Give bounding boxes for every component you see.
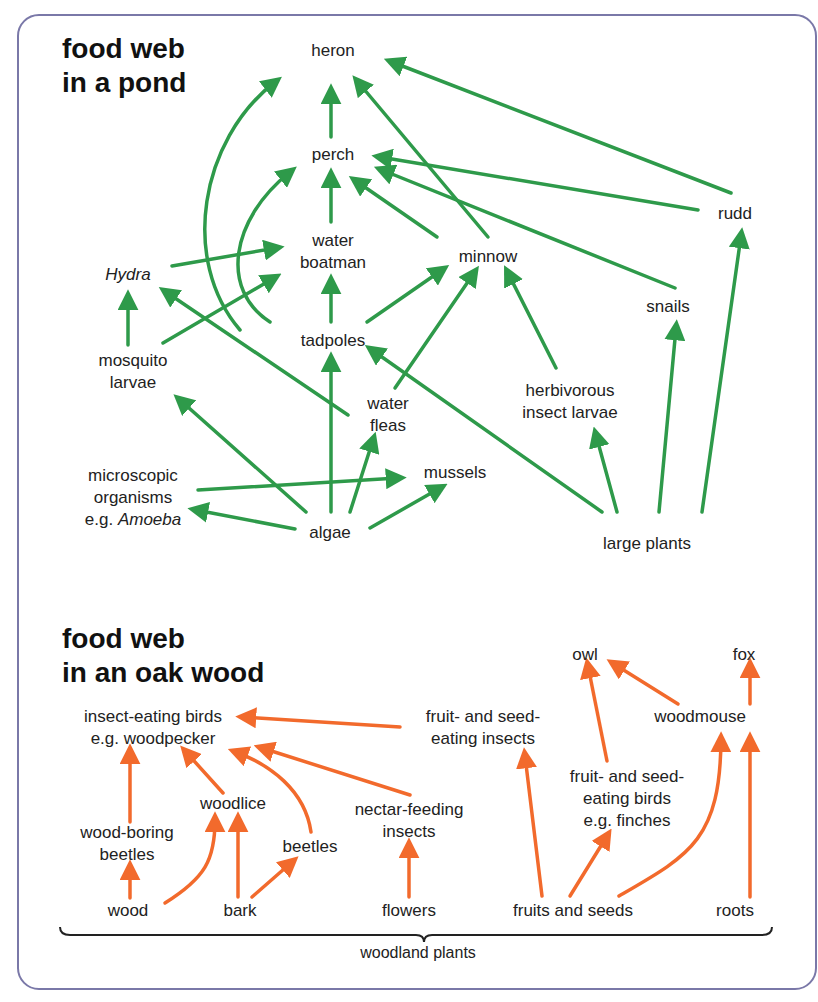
pond-node-algae: algae — [309, 522, 351, 544]
pond-node-large-plants: large plants — [603, 533, 691, 555]
pond-arrow-minnow-to-perch — [356, 181, 437, 237]
wood-node-fox: fox — [733, 644, 756, 666]
wood-node-woodmouse: woodmouse — [654, 706, 746, 728]
pond-arrow-large_plants-to-snails — [659, 328, 676, 512]
pond-arrow-herbivorous_insect_larvae-to-minnow — [508, 273, 556, 368]
pond-arrow-minnow-to-heron — [358, 82, 488, 237]
pond-arrow-tadpoles-to-perch — [238, 172, 290, 322]
pond-arrow-algae-to-water_fleas — [350, 440, 373, 512]
wood-node-beetles: beetles — [283, 836, 338, 858]
pond-node-mussels: mussels — [424, 462, 486, 484]
wood-arrow-fruits_seeds-to-fruit_seed_birds — [570, 836, 607, 896]
wood-node-wood: wood — [108, 900, 149, 922]
wood-node-nectar-insects: nectar-feedinginsects — [355, 799, 464, 843]
wood-node-fruit-seed-birds: fruit- and seed-eating birdse.g. finches — [570, 766, 684, 832]
pond-arrow-tadpoles-to-minnow — [367, 270, 442, 322]
wood-node-owl: owl — [572, 644, 598, 666]
pond-title: food web in a pond — [62, 32, 186, 100]
pond-arrow-rudd-to-heron — [392, 62, 731, 193]
wood-node-flowers: flowers — [382, 900, 436, 922]
pond-node-perch: perch — [312, 144, 355, 166]
wood-arrow-fruit_seed_birds-to-owl — [588, 666, 607, 761]
wood-arrow-bark-to-beetles — [252, 862, 292, 897]
woodland-plants-brace — [60, 927, 772, 942]
wood-arrow-beetles-to-insect_eating_birds — [236, 752, 311, 832]
wood-arrow-fruits_seeds-to-fruit_seed_insects — [525, 756, 542, 896]
wood-node-wood-boring-beetles: wood-boringbeetles — [80, 822, 174, 866]
pond-node-mosquito-larvae: mosquitolarvae — [99, 350, 168, 394]
pond-node-microscopic: microscopicorganismse.g. Amoeba — [85, 465, 181, 531]
pond-arrow-algae-to-microscopic — [196, 510, 295, 529]
pond-arrow-tadpoles-to-heron — [205, 82, 275, 330]
wood-node-insect-eating-birds: insect-eating birdse.g. woodpecker — [84, 706, 222, 750]
wood-arrow-woodmouse-to-owl — [614, 664, 678, 704]
wood-node-fruits-seeds: fruits and seeds — [513, 900, 633, 922]
wood-node-fruit-seed-insects: fruit- and seed-eating insects — [426, 706, 540, 750]
wood-arrow-woodlice-to-insect_eating_birds — [186, 752, 223, 793]
woodland-plants-label: woodland plants — [360, 944, 476, 962]
pond-node-rudd: rudd — [718, 203, 752, 225]
pond-arrow-large_plants-to-rudd — [702, 236, 741, 512]
pond-title-line-2: in a pond — [62, 66, 186, 100]
wood-title-line-1: food web — [62, 622, 264, 656]
pond-arrow-microscopic-to-mussels — [198, 478, 398, 490]
pond-arrow-algae-to-mosquito_larvae — [180, 400, 306, 512]
pond-node-hydra: Hydra — [105, 264, 150, 286]
pond-node-herbivorous-insect-larvae: herbivorousinsect larvae — [522, 380, 617, 424]
wood-node-bark: bark — [223, 900, 256, 922]
wood-node-woodlice: woodlice — [200, 793, 266, 815]
wood-title: food web in an oak wood — [62, 622, 264, 690]
pond-arrow-water_fleas-to-minnow — [395, 273, 474, 388]
pond-node-snails: snails — [646, 296, 689, 318]
pond-title-line-1: food web — [62, 32, 186, 66]
pond-arrow-algae-to-mussels — [370, 488, 440, 528]
pond-arrow-large_plants-to-herbivorous_insect_larvae — [596, 435, 617, 512]
pond-node-tadpoles: tadpoles — [301, 330, 365, 352]
pond-node-water-boatman: waterboatman — [300, 230, 366, 274]
wood-title-line-2: in an oak wood — [62, 656, 264, 690]
pond-arrow-hydra-to-water_boatman — [172, 248, 276, 266]
pond-node-minnow: minnow — [459, 246, 518, 268]
wood-node-roots: roots — [716, 900, 754, 922]
pond-node-water-fleas: waterfleas — [367, 393, 409, 437]
pond-arrow-rudd-to-perch — [380, 157, 698, 210]
wood-arrow-fruit_seed_insects-to-insect_eating_birds — [244, 717, 400, 727]
pond-node-heron: heron — [311, 40, 354, 62]
wood-arrow-nectar_insects-to-insect_eating_birds — [262, 748, 410, 795]
